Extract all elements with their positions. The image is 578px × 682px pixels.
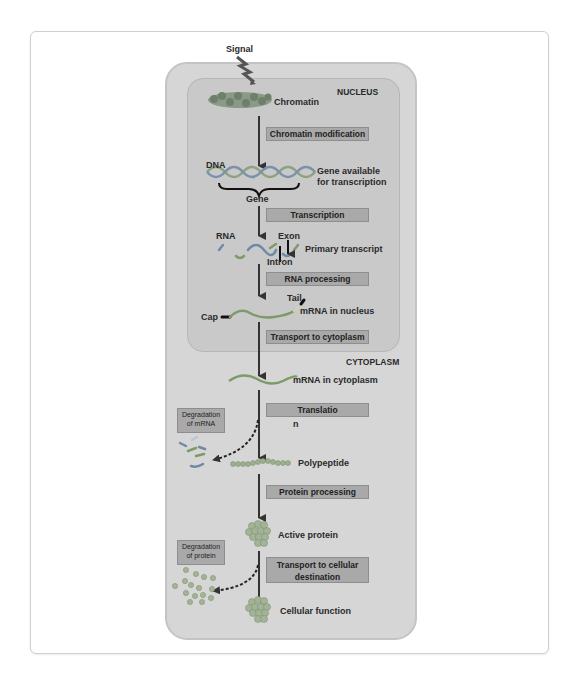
gene-label: Gene xyxy=(246,194,269,204)
degradation-arrow-protein xyxy=(213,565,258,591)
gene-available-label-2: for transcription xyxy=(317,177,387,187)
cellular-function-protein-icon xyxy=(246,597,271,623)
rna-label: RNA xyxy=(216,231,236,241)
degradation-mrna-line1: Degradation xyxy=(178,410,224,419)
step-protein-processing: Protein processing xyxy=(266,485,369,499)
polypeptide-icon xyxy=(231,459,291,467)
degradation-protein-line2: of protein xyxy=(178,551,224,560)
step-transport-line2: destination xyxy=(267,571,368,583)
step-chromatin-modification: Chromatin modification xyxy=(266,127,369,141)
intron-label: Intron xyxy=(267,257,293,267)
primary-transcript-icon xyxy=(219,244,298,258)
step-translation: Translatio xyxy=(266,403,369,417)
gene-available-label-1: Gene available xyxy=(317,166,380,176)
cap-label: Cap xyxy=(201,312,218,322)
degraded-mrna-icon xyxy=(180,437,205,467)
nucleus-label: NUCLEUS xyxy=(337,87,378,97)
active-protein-icon xyxy=(246,521,271,547)
degradation-protein-line1: Degradation xyxy=(178,542,224,551)
dna-label: DNA xyxy=(206,160,226,170)
step-transport-line1: Transport to cellular xyxy=(267,559,368,571)
cytoplasm-label: CYTOPLASM xyxy=(346,357,399,367)
step-translation-overflow: n xyxy=(293,419,299,429)
step-transcription: Transcription xyxy=(266,208,369,222)
mrna-cytoplasm-icon xyxy=(229,375,297,383)
chromatin-label: Chromatin xyxy=(274,97,319,107)
signal-lightning-icon xyxy=(237,57,256,85)
mrna-cytoplasm-label: mRNA in cytoplasm xyxy=(293,375,378,385)
degradation-protein-box: Degradation of protein xyxy=(177,540,225,565)
polypeptide-label: Polypeptide xyxy=(298,458,349,468)
degraded-protein-icon xyxy=(172,567,215,604)
step-transport-to-cytoplasm: Transport to cytoplasm xyxy=(266,330,369,344)
primary-transcript-label: Primary transcript xyxy=(305,244,383,254)
step-transport-to-destination: Transport to cellular destination xyxy=(266,557,369,583)
active-protein-label: Active protein xyxy=(278,530,338,540)
mrna-nucleus-label: mRNA in nucleus xyxy=(300,306,374,316)
signal-label: Signal xyxy=(226,44,253,54)
degradation-mrna-box: Degradation of mRNA xyxy=(177,408,225,433)
degradation-mrna-line2: of mRNA xyxy=(178,419,224,428)
cellular-function-label: Cellular function xyxy=(280,606,351,616)
step-rna-processing: RNA processing xyxy=(266,272,369,286)
chromatin-icon xyxy=(208,92,272,108)
tail-label: Tail xyxy=(287,293,302,303)
exon-label: Exon xyxy=(278,231,300,241)
